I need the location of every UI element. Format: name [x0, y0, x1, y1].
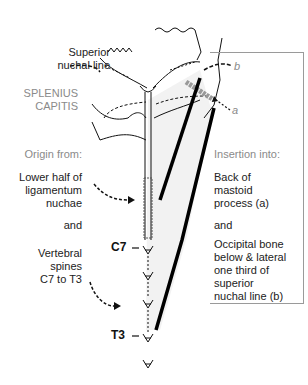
- label-line: one third of: [214, 264, 286, 277]
- label-line: Lower half of: [0, 171, 82, 184]
- label-line: mastoid: [214, 184, 269, 197]
- origin-heading: Origin from:: [0, 148, 82, 161]
- label-line: superior: [214, 277, 286, 290]
- insertion-item-occipital: Occipital bone below & lateral one third…: [214, 238, 286, 303]
- arrowhead-vertebral: [114, 302, 121, 310]
- label-c7: C7: [111, 241, 126, 254]
- label-line: SPLENIUS: [10, 87, 78, 100]
- vertebra-t4: [143, 360, 153, 368]
- origin-item-vertebral: Vertebral spines C7 to T3: [0, 247, 82, 286]
- insertion-item-mastoid: Back of mastoid process (a): [214, 171, 269, 210]
- marker-a: a: [232, 104, 238, 117]
- arrow-ligamentum: [94, 184, 128, 200]
- label-line: below & lateral: [214, 251, 286, 264]
- label-line: C7 to T3: [0, 273, 82, 286]
- label-line: ligamentum: [0, 184, 82, 197]
- wavy-suture-left: [108, 48, 132, 52]
- label-line: nuchae: [0, 197, 82, 210]
- label-line: Vertebral: [0, 247, 82, 260]
- origin-item-and: and: [0, 219, 82, 232]
- arrow-vertebral: [90, 282, 114, 306]
- vertebra-t3: [143, 334, 153, 342]
- muscle-splenius-capitis: [146, 70, 212, 330]
- marker-b: b: [234, 60, 240, 73]
- label-line: Superior: [40, 46, 110, 59]
- insertion-heading: Insertion into:: [214, 148, 280, 161]
- label-line: Back of: [214, 171, 269, 184]
- label-line: Occipital bone: [214, 238, 286, 251]
- label-line: nuchal line (b): [214, 290, 286, 303]
- label-line: spines: [0, 260, 82, 273]
- label-t3: T3: [111, 329, 125, 342]
- inferior-nuchal-dotted: [105, 62, 195, 78]
- label-line: nuchal line: [40, 59, 110, 72]
- label-line: process (a): [214, 197, 269, 210]
- label-line: CAPITIS: [10, 100, 78, 113]
- label-muscle-name: SPLENIUS CAPITIS: [10, 87, 78, 113]
- insertion-item-and: and: [214, 219, 232, 232]
- wavy-suture-right: [155, 28, 201, 60]
- origin-item-ligamentum: Lower half of ligamentum nuchae: [0, 171, 82, 210]
- label-superior-nuchal-line: Superior nuchal line: [40, 46, 110, 72]
- arrowhead-ligamentum: [128, 196, 135, 204]
